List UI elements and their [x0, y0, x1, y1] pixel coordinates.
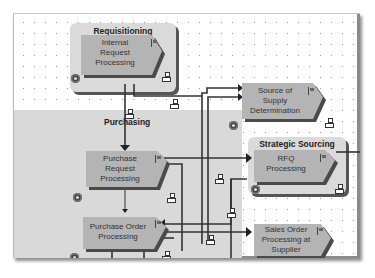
org-unit-icon [162, 251, 171, 258]
step-label: Source of Supply Determination [244, 86, 306, 116]
gear-icon [71, 74, 80, 83]
step-label: Internal Request Processing [85, 38, 145, 68]
org-unit-icon [215, 174, 224, 183]
org-unit-icon [335, 184, 344, 193]
step-rfq-processing[interactable]: RFQ Processing [254, 150, 344, 188]
step-purchase-order-processing[interactable]: Purchase Order Processing [83, 217, 175, 255]
org-unit-icon [125, 109, 134, 118]
step-internal-request-processing[interactable]: Internal Request Processing [81, 35, 169, 81]
gear-icon [70, 253, 79, 258]
connector-lines [14, 14, 360, 258]
step-label: Sales Order Processing at Supplier [256, 225, 316, 255]
diagram-canvas: Purchasing Requisitioning Strategic Sour… [13, 13, 360, 258]
org-unit-icon [227, 208, 236, 217]
gear-icon [73, 193, 82, 202]
transaction-flag-icon [155, 220, 162, 228]
org-unit-icon [162, 72, 171, 81]
step-label: Purchase Order Processing [83, 222, 153, 242]
transaction-flag-icon [317, 227, 324, 235]
org-unit-icon [167, 193, 176, 202]
transaction-flag-icon [151, 39, 158, 47]
step-label: RFQ Processing [256, 154, 316, 174]
gear-icon [251, 185, 260, 194]
step-source-of-supply-determination[interactable]: Source of Supply Determination [242, 83, 332, 125]
transaction-flag-icon [308, 87, 315, 95]
transaction-flag-icon [155, 155, 162, 163]
org-unit-icon [206, 235, 215, 244]
step-label: Purchase Request Processing [90, 154, 150, 184]
step-purchase-request-processing[interactable]: Purchase Request Processing [86, 151, 176, 193]
org-unit-icon [325, 118, 334, 127]
transaction-flag-icon [320, 154, 327, 162]
org-unit-icon [170, 99, 179, 108]
gear-icon [229, 121, 238, 130]
step-sales-order-processing-at-supplier[interactable]: Sales Order Processing at Supplier [254, 224, 344, 258]
